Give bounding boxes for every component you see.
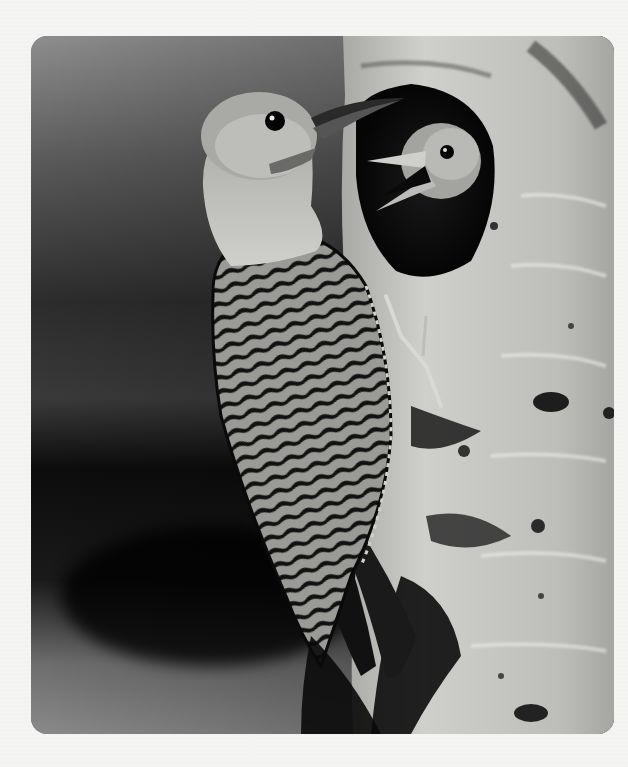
photo-frame xyxy=(31,36,614,734)
woodpecker-photo xyxy=(31,36,614,734)
bark-knot xyxy=(533,392,569,412)
eye xyxy=(265,111,285,131)
